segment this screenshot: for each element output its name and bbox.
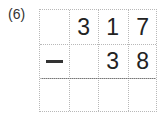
cell-subtrahend-ones: 8	[128, 44, 158, 78]
cell-minuend-ones: 7	[128, 10, 158, 44]
minus-icon	[46, 60, 63, 63]
subtraction-grid: 3 1 7 3 8	[39, 9, 157, 112]
cell-r2c2	[69, 44, 99, 78]
cell-r1c1	[40, 10, 70, 44]
cell-subtrahend-tens: 3	[98, 44, 128, 78]
minus-sign-cell	[40, 44, 70, 78]
answer-cell-3[interactable]	[98, 78, 128, 112]
cell-minuend-tens: 1	[98, 10, 128, 44]
answer-cell-4[interactable]	[128, 78, 158, 112]
cell-minuend-hundreds: 3	[69, 10, 99, 44]
problem-label: (6)	[8, 6, 25, 22]
answer-cell-2[interactable]	[69, 78, 99, 112]
answer-cell-1[interactable]	[40, 78, 70, 112]
